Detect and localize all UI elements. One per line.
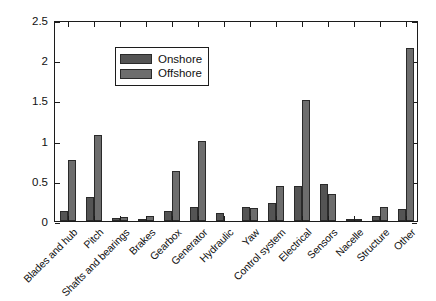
x-tick-top bbox=[250, 22, 251, 27]
legend-swatch-offshore bbox=[120, 69, 152, 79]
x-tick-top bbox=[276, 22, 277, 27]
bar-offshore bbox=[120, 217, 128, 221]
bar-offshore bbox=[406, 48, 414, 221]
bar-group bbox=[367, 22, 393, 221]
y-tick-label: 1.5 bbox=[0, 95, 48, 107]
bar-onshore bbox=[190, 207, 198, 221]
bar-offshore bbox=[354, 219, 362, 221]
bar-group bbox=[237, 22, 263, 221]
y-tick-label: 2.5 bbox=[0, 15, 48, 27]
plot-frame: Onshore Offshore bbox=[54, 21, 418, 222]
bar-offshore bbox=[380, 207, 388, 221]
bar-offshore bbox=[276, 186, 284, 221]
plot-area bbox=[55, 22, 417, 221]
x-tick-bottom bbox=[406, 216, 407, 221]
bar-onshore bbox=[216, 213, 224, 221]
bar-group bbox=[289, 22, 315, 221]
bar-offshore bbox=[250, 208, 258, 221]
bar-onshore bbox=[346, 219, 354, 221]
y-tick-left bbox=[55, 223, 60, 224]
x-tick-top bbox=[354, 22, 355, 27]
bar-onshore bbox=[138, 219, 146, 221]
x-tick-top bbox=[68, 22, 69, 27]
x-tick-bottom bbox=[198, 216, 199, 221]
legend-entry-onshore: Onshore bbox=[120, 53, 202, 66]
bar-group bbox=[55, 22, 81, 221]
x-tick-top bbox=[224, 22, 225, 27]
bar-onshore bbox=[86, 197, 94, 221]
bar-group bbox=[211, 22, 237, 221]
bar-offshore bbox=[302, 100, 310, 221]
bar-onshore bbox=[320, 184, 328, 221]
bar-onshore bbox=[372, 216, 380, 221]
bar-onshore bbox=[112, 218, 120, 221]
legend-label-offshore: Offshore bbox=[158, 68, 202, 79]
x-tick-label: Blades and hub bbox=[21, 226, 80, 285]
bar-offshore bbox=[68, 160, 76, 221]
y-tick-right bbox=[412, 223, 417, 224]
bar-offshore bbox=[198, 141, 206, 221]
chart-legend: Onshore Offshore bbox=[115, 47, 209, 86]
bar-onshore bbox=[60, 211, 68, 221]
x-tick-bottom bbox=[328, 216, 329, 221]
figure-bar-chart: Failures per turbine per year Onshore Of… bbox=[0, 0, 436, 301]
x-tick-top bbox=[406, 22, 407, 27]
y-tick-label: 1 bbox=[0, 136, 48, 148]
y-tick-label: 2 bbox=[0, 55, 48, 67]
bar-offshore bbox=[172, 171, 180, 221]
x-tick-bottom bbox=[146, 216, 147, 221]
bar-onshore bbox=[268, 203, 276, 221]
y-tick-label: 0.5 bbox=[0, 176, 48, 188]
x-tick-bottom bbox=[302, 216, 303, 221]
x-tick-bottom bbox=[224, 216, 225, 221]
legend-swatch-onshore bbox=[120, 54, 152, 64]
bar-offshore bbox=[328, 194, 336, 221]
bar-onshore bbox=[164, 211, 172, 221]
bar-offshore bbox=[94, 135, 102, 221]
x-tick-bottom bbox=[250, 216, 251, 221]
x-tick-label: Other bbox=[391, 226, 418, 253]
x-tick-bottom bbox=[68, 216, 69, 221]
x-tick-bottom bbox=[380, 216, 381, 221]
x-tick-bottom bbox=[276, 216, 277, 221]
x-tick-bottom bbox=[354, 216, 355, 221]
y-tick-label: 0 bbox=[0, 216, 48, 228]
bar-group bbox=[393, 22, 419, 221]
bar-onshore bbox=[242, 207, 250, 221]
bar-group bbox=[263, 22, 289, 221]
x-tick-top bbox=[172, 22, 173, 27]
bar-group bbox=[315, 22, 341, 221]
x-tick-top bbox=[198, 22, 199, 27]
x-tick-bottom bbox=[120, 216, 121, 221]
bar-offshore bbox=[146, 216, 154, 221]
x-tick-top bbox=[302, 22, 303, 27]
x-tick-bottom bbox=[94, 216, 95, 221]
x-tick-top bbox=[94, 22, 95, 27]
bar-group bbox=[81, 22, 107, 221]
x-tick-top bbox=[380, 22, 381, 27]
x-tick-label: Yaw bbox=[239, 226, 261, 248]
x-tick-bottom bbox=[172, 216, 173, 221]
x-tick-top bbox=[146, 22, 147, 27]
legend-label-onshore: Onshore bbox=[158, 54, 202, 65]
bar-onshore bbox=[398, 209, 406, 221]
bar-onshore bbox=[294, 186, 302, 221]
legend-entry-offshore: Offshore bbox=[120, 67, 202, 80]
bar-group bbox=[341, 22, 367, 221]
x-tick-top bbox=[328, 22, 329, 27]
x-tick-top bbox=[120, 22, 121, 27]
